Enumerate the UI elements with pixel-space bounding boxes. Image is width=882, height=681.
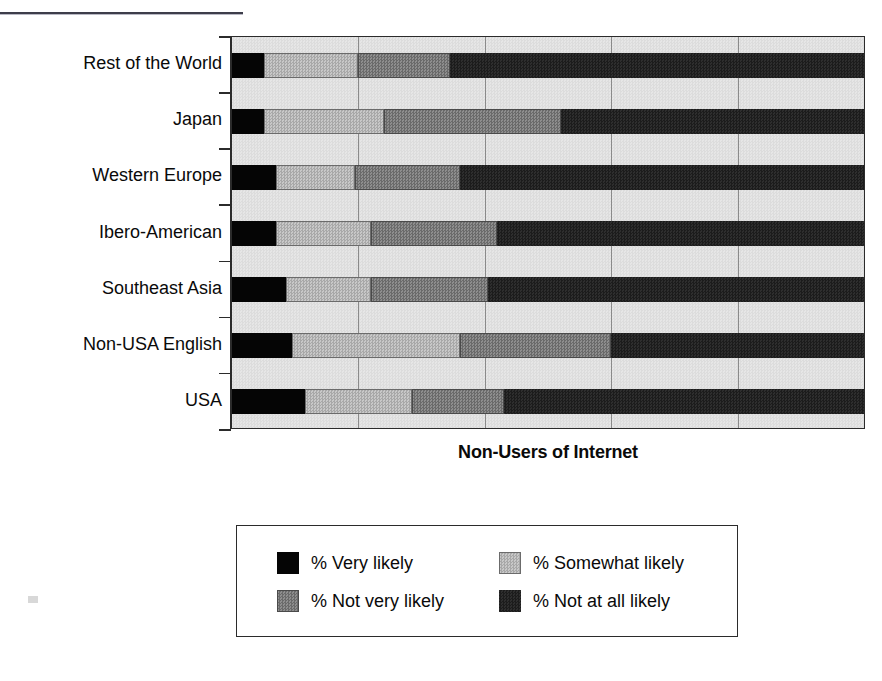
header-divider-rule: [0, 12, 243, 14]
bar-segment: [232, 221, 276, 246]
bar-segment: [488, 277, 864, 302]
category-label: Southeast Asia: [2, 278, 222, 299]
scan-artifact: [28, 596, 38, 603]
legend-label: % Not at all likely: [533, 591, 670, 612]
y-axis-tick: [219, 36, 231, 38]
bar-stack: [232, 333, 864, 358]
bar-segment: [460, 165, 864, 190]
legend-item[interactable]: % Very likely: [277, 552, 499, 574]
bar-segment: [561, 109, 864, 134]
bar-segment: [611, 333, 864, 358]
bar-stack: [232, 165, 864, 190]
bar-segment: [292, 333, 459, 358]
category-axis-labels: Rest of the WorldJapanWestern EuropeIber…: [0, 36, 222, 429]
y-axis-tick: [219, 317, 231, 319]
y-axis-tick: [219, 261, 231, 263]
bar-segment: [264, 109, 384, 134]
legend-swatch-somewhat-likely-icon: [499, 552, 521, 574]
legend-swatch-very-likely-icon: [277, 552, 299, 574]
bar-segment: [497, 221, 864, 246]
category-label: Ibero-American: [2, 222, 222, 243]
category-label: Western Europe: [2, 165, 222, 186]
legend-label: % Very likely: [311, 553, 413, 574]
bar-stack: [232, 221, 864, 246]
legend-item[interactable]: % Not at all likely: [499, 590, 717, 612]
bar-segment: [232, 165, 276, 190]
legend-item[interactable]: % Somewhat likely: [499, 552, 717, 574]
legend-grid: % Very likely % Somewhat likely % Not ve…: [277, 544, 717, 620]
legend-label: % Not very likely: [311, 591, 444, 612]
bar-segment: [286, 277, 371, 302]
legend-swatch-not-very-likely-icon: [277, 590, 299, 612]
plot-area: [231, 36, 865, 429]
bar-segment: [276, 221, 371, 246]
y-axis-tick: [219, 148, 231, 150]
bar-segment: [371, 277, 488, 302]
y-axis-tick: [219, 92, 231, 94]
y-axis-tick: [219, 204, 231, 206]
bar-segment: [412, 389, 504, 414]
bar-segment: [232, 53, 264, 78]
y-axis-tick: [219, 373, 231, 375]
y-axis-tick: [219, 429, 231, 431]
bar-segment: [460, 333, 612, 358]
bar-stack: [232, 277, 864, 302]
bar-segment: [371, 221, 497, 246]
bar-segment: [232, 277, 286, 302]
bar-segment: [276, 165, 355, 190]
x-axis-title: Non-Users of Internet: [231, 442, 865, 463]
bar-segment: [232, 389, 305, 414]
category-label: USA: [2, 390, 222, 411]
chart-legend: % Very likely % Somewhat likely % Not ve…: [236, 525, 738, 637]
bar-segment: [355, 165, 459, 190]
bar-segment: [450, 53, 864, 78]
bar-segment: [232, 333, 292, 358]
bar-segment: [305, 389, 412, 414]
bar-stack: [232, 389, 864, 414]
category-label: Rest of the World: [2, 53, 222, 74]
bar-segment: [358, 53, 450, 78]
bar-stack: [232, 53, 864, 78]
bar-stack: [232, 109, 864, 134]
bar-segment: [504, 389, 864, 414]
category-label: Japan: [2, 109, 222, 130]
legend-item[interactable]: % Not very likely: [277, 590, 499, 612]
bar-segment: [264, 53, 359, 78]
bar-segment: [232, 109, 264, 134]
legend-label: % Somewhat likely: [533, 553, 684, 574]
legend-swatch-not-at-all-likely-icon: [499, 590, 521, 612]
bar-segment: [384, 109, 561, 134]
category-label: Non-USA English: [2, 334, 222, 355]
